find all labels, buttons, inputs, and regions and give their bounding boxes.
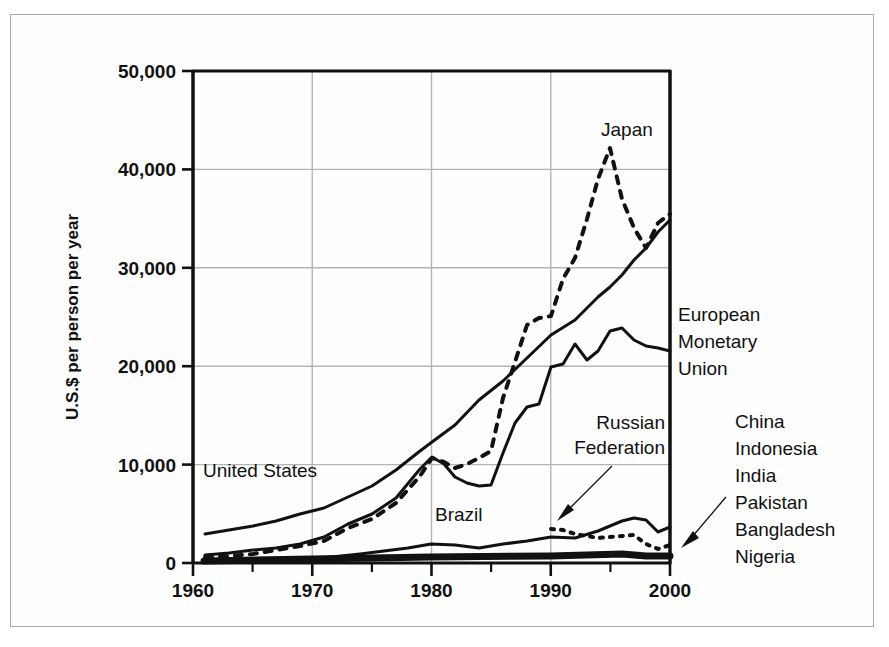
xtick-label-1980: 1980 — [410, 580, 452, 601]
group-line-6: Nigeria — [735, 546, 796, 567]
developing-group-arrow-shaft — [692, 497, 726, 537]
russian-federation-line-2: Federation — [574, 437, 665, 458]
group-line-3: India — [735, 465, 777, 486]
ytick-label-40000: 40,000 — [118, 159, 176, 180]
ytick-label-0: 0 — [165, 553, 176, 574]
ytick-label-10000: 10,000 — [118, 455, 176, 476]
series-label-united-states: United States — [203, 460, 317, 481]
developing-group-arrow-head — [681, 531, 699, 548]
ytick-label-20000: 20,000 — [118, 356, 176, 377]
series-label-japan: Japan — [601, 119, 653, 140]
chart-page: 50,000 40,000 30,000 20,000 10,000 0 196… — [0, 0, 889, 647]
emu-line-1: European — [678, 304, 760, 325]
xtick-label-1960: 1960 — [172, 580, 214, 601]
series-group — [204, 148, 670, 561]
y-tick-labels: 50,000 40,000 30,000 20,000 10,000 0 — [118, 61, 176, 574]
series-label-brazil: Brazil — [435, 504, 483, 525]
russian-federation-arrow-shaft — [566, 466, 612, 512]
xtick-label-2000: 2000 — [649, 580, 691, 601]
ytick-label-30000: 30,000 — [118, 258, 176, 279]
xtick-label-1970: 1970 — [291, 580, 333, 601]
gdp-per-capita-line-chart: 50,000 40,000 30,000 20,000 10,000 0 196… — [0, 0, 889, 647]
emu-line-2: Monetary — [678, 331, 758, 352]
group-line-4: Pakistan — [735, 492, 808, 513]
xtick-label-1990: 1990 — [530, 580, 572, 601]
y-axis-title: U.S.$ per person per year — [63, 214, 82, 420]
group-line-1: China — [735, 411, 785, 432]
group-line-2: Indonesia — [735, 438, 818, 459]
x-axis-ticks — [193, 563, 670, 576]
ytick-label-50000: 50,000 — [118, 61, 176, 82]
group-line-5: Bangladesh — [735, 519, 835, 540]
russian-federation-line-1: Russian — [596, 412, 665, 433]
series-japan — [205, 148, 670, 557]
series-label-european-monetary-union: European Monetary Union — [678, 304, 760, 379]
series-label-developing-group: China Indonesia India Pakistan Banglades… — [681, 411, 835, 567]
x-tick-labels: 1960 1970 1980 1990 2000 — [172, 580, 691, 601]
emu-line-3: Union — [678, 358, 728, 379]
gridlines — [193, 71, 670, 563]
series-label-russian-federation: Russian Federation — [557, 412, 665, 521]
